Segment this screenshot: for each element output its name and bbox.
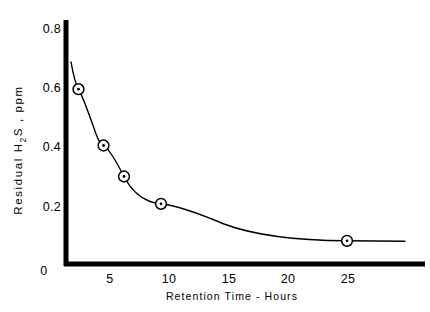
data-point-marker [73, 84, 84, 95]
y-tick-label-0.4: 0.4 [43, 140, 61, 154]
data-point-marker [156, 198, 167, 209]
y-axis-title-main: Residual H [12, 142, 24, 214]
chart-svg: 0.8 0.6 0.4 0.2 0 5 10 15 20 25 Retentio… [0, 0, 430, 312]
y-axis-title-rest: S , ppm [12, 85, 24, 136]
y-tick-label-0.6: 0.6 [43, 81, 61, 95]
data-point-marker [119, 171, 130, 182]
x-tick-label-25: 25 [341, 272, 356, 286]
y-tick-label-0: 0 [40, 264, 47, 278]
x-tick-label-5: 5 [106, 272, 113, 286]
data-point-marker [342, 235, 353, 246]
y-tick-label-0.8: 0.8 [43, 22, 61, 36]
x-tick-label-15: 15 [222, 272, 237, 286]
x-tick-label-20: 20 [281, 272, 296, 286]
y-tick-label-0.2: 0.2 [43, 200, 61, 214]
chart-figure: 0.8 0.6 0.4 0.2 0 5 10 15 20 25 Retentio… [0, 0, 430, 312]
data-point-marker [98, 140, 109, 151]
x-axis-title: Retention Time - Hours [166, 290, 298, 302]
x-tick-label-10: 10 [162, 272, 177, 286]
